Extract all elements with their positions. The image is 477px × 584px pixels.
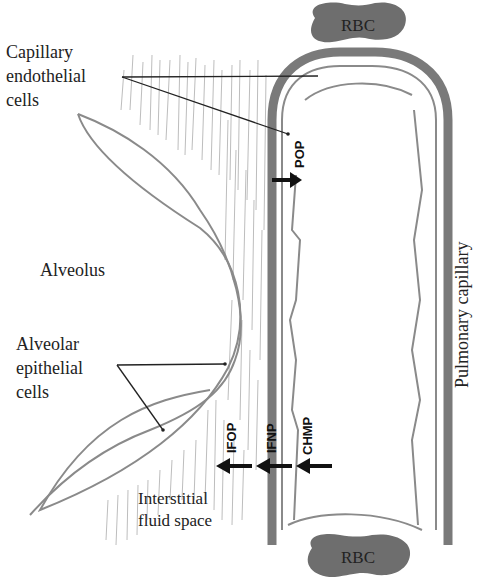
svg-text:cells: cells [16,382,49,402]
svg-text:Capillary: Capillary [6,42,73,62]
rbc-top-label: RBC [341,16,375,35]
alveolar-epithelium [30,114,241,515]
svg-text:IFOP: IFOP [224,422,239,453]
arrow-left-icon [296,458,332,474]
pulmonary-capillary [272,52,448,545]
leader-lines [117,76,318,430]
svg-text:cells: cells [6,90,39,110]
svg-text:Interstitial: Interstitial [138,489,208,508]
label-pulmonary-capillary: Pulmonary capillary [452,242,472,388]
svg-text:CHMP: CHMP [300,416,315,455]
endothelial-lumen-right [412,110,422,525]
svg-text:Alveolar: Alveolar [16,334,79,354]
endothelial-lumen-left [290,175,300,520]
endothelial-lumen-top [305,84,412,100]
force-ifnp: IFNP [256,423,292,474]
svg-text:endothelial: endothelial [6,66,86,86]
label-interstitial: Interstitial fluid space [138,489,212,530]
label-alveolar-epithelial: Alveolar epithelial cells [16,334,83,402]
force-pop: POP [272,140,307,188]
label-capillary-endothelial: Capillary endothelial cells [6,42,86,110]
diagram-svg: RBC RBC Capillary endothelial cells Alve… [0,0,477,584]
label-alveolus: Alveolus [40,260,105,280]
capillary-wall [272,52,448,545]
epithelial-cell-lower [40,114,240,510]
svg-text:IFNP: IFNP [264,423,279,453]
rbc-bottom: RBC [308,534,410,577]
svg-text:fluid space: fluid space [138,511,212,530]
svg-text:POP: POP [292,140,307,168]
capillary-bottom-edge [288,514,422,530]
interstitial-hatching [106,55,266,545]
rbc-bottom-label: RBC [341,548,375,567]
rbc-top: RBC [311,2,406,42]
force-chmp: CHMP [296,416,332,474]
epithelial-cell-upper [30,114,241,515]
force-ifop: IFOP [216,422,252,474]
diagram-canvas: RBC RBC Capillary endothelial cells Alve… [0,0,477,584]
svg-text:epithelial: epithelial [16,358,83,378]
